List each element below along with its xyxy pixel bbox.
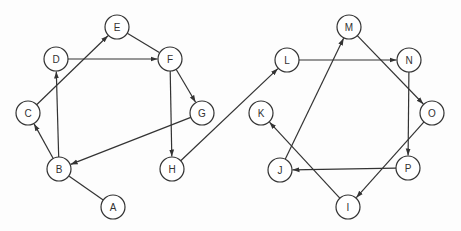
node-label: I [347, 202, 350, 213]
node-label: M [345, 22, 353, 33]
edge-n-to-p [408, 72, 409, 156]
edge-f-to-h [170, 71, 172, 157]
node-label: A [110, 202, 117, 213]
edge-f-to-g [176, 69, 196, 102]
graph-diagram: ABCDEFGHIJKLMNOP [0, 0, 461, 231]
node-label: H [168, 164, 175, 175]
node-label: P [405, 163, 412, 174]
node-label: L [284, 55, 290, 66]
node-label: J [278, 165, 283, 176]
node-b: B [47, 157, 71, 181]
node-g: G [190, 101, 214, 125]
node-e: E [105, 15, 129, 39]
node-c: C [16, 101, 40, 125]
edge-c-to-e [37, 36, 108, 105]
node-m: M [337, 15, 361, 39]
node-label: G [198, 108, 206, 119]
node-label: O [428, 108, 436, 119]
node-label: N [405, 55, 412, 66]
node-label: F [167, 54, 173, 65]
node-label: B [56, 164, 63, 175]
node-f: F [158, 47, 182, 71]
edges-layer [34, 33, 424, 200]
node-h: H [160, 157, 184, 181]
node-label: K [258, 108, 265, 119]
node-p: P [396, 156, 420, 180]
node-label: C [24, 108, 31, 119]
nodes-layer: ABCDEFGHIJKLMNOP [16, 15, 444, 219]
node-l: L [275, 48, 299, 72]
node-d: D [44, 47, 68, 71]
edge-e-to-f [127, 33, 159, 52]
edge-a-to-b [69, 176, 103, 200]
edge-b-to-c [34, 124, 53, 159]
graph-svg: ABCDEFGHIJKLMNOP [0, 0, 461, 231]
node-j: J [268, 158, 292, 182]
node-k: K [249, 101, 273, 125]
edge-p-to-j [293, 168, 397, 170]
node-label: D [52, 54, 59, 65]
node-o: O [420, 101, 444, 125]
node-a: A [101, 195, 125, 219]
node-label: E [114, 22, 121, 33]
node-i: I [336, 195, 360, 219]
node-n: N [397, 48, 421, 72]
